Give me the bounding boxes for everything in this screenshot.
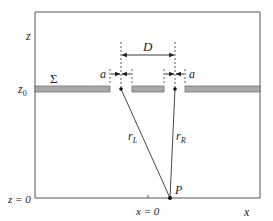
screen-plate — [35, 86, 260, 92]
ray-left — [121, 89, 170, 198]
point-p — [168, 196, 172, 200]
x-axis-label: x — [243, 205, 250, 219]
z-zero-label: z = 0 — [7, 193, 31, 205]
right-slit-center — [173, 87, 177, 91]
rays — [121, 89, 175, 198]
ray-left-label: rL — [128, 129, 138, 145]
z-axis-label: z — [25, 29, 31, 43]
ray-right-label: rR — [176, 129, 186, 145]
left-slit-width-label: a — [100, 67, 106, 81]
double-slit-diagram: z x z0 z = 0 x = 0 Σ D a a rL rR P — [0, 0, 273, 221]
screen-label: Σ — [50, 71, 58, 86]
x-zero-label: x = 0 — [135, 205, 160, 217]
separation-label: D — [142, 39, 153, 54]
right-slit-width-label: a — [189, 67, 195, 81]
point-p-label: P — [174, 183, 183, 197]
z0-label: z0 — [17, 82, 27, 98]
left-slit-center — [119, 87, 123, 91]
ray-right — [170, 89, 175, 198]
